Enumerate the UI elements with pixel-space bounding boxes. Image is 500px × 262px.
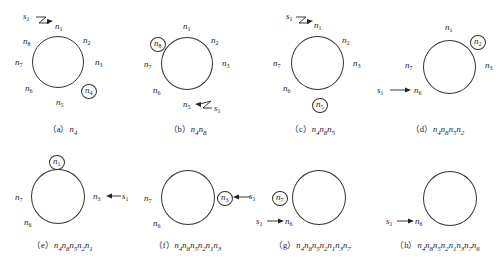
node-n6: n6	[24, 217, 32, 230]
node-n5: n5	[56, 97, 64, 110]
node-n6: n6	[153, 218, 161, 231]
arrow-right-icon	[267, 217, 285, 225]
node-n1: n1	[314, 20, 322, 33]
zigzag-arrow-icon	[36, 16, 54, 26]
node-n6: n6	[25, 83, 33, 96]
node-n7: n7	[15, 192, 23, 205]
node-n7: n7	[144, 59, 152, 72]
node-n6: n6	[283, 83, 291, 96]
node-n7-highlighted: n7	[272, 191, 288, 206]
node-n3: n3	[353, 58, 361, 71]
caption-g: （g）n4n8n5n2n1n3n7	[250, 238, 375, 253]
ring	[32, 36, 84, 88]
ring	[291, 36, 344, 90]
node-n7: n7	[144, 193, 152, 206]
node-n7: n7	[405, 60, 413, 73]
node-n7: n7	[273, 58, 281, 71]
node-n3-highlighted: n3	[217, 191, 233, 206]
zigzag-arrow-icon	[296, 16, 314, 26]
node-n7: n7	[15, 57, 23, 70]
node-n1: n1	[445, 22, 453, 35]
node-n1-highlighted: n1	[49, 155, 65, 170]
source-s1-lower: s1	[256, 216, 263, 229]
node-n3: n3	[93, 191, 101, 204]
node-n3: n3	[485, 60, 493, 73]
arrow-left-icon	[106, 192, 122, 200]
ring	[423, 171, 477, 226]
panel-b: n1 n2 n3 n5 s1 n6 n7 n8 （b）n4n8	[125, 0, 250, 131]
caption-e: （e）n4n8n5n2n1	[0, 238, 125, 253]
caption-f: （f）n4n8n5n2n1n3	[125, 238, 250, 253]
node-n3: n3	[95, 57, 103, 70]
node-n5-highlighted: n5	[312, 98, 328, 113]
ring	[292, 170, 346, 225]
node-n2: n2	[211, 35, 219, 48]
node-n1: n1	[183, 21, 191, 34]
arrow-right-icon	[397, 217, 415, 225]
panel-c: s1 n1 n2 n3 n5 n6 n7 （c）n4n8n5	[250, 0, 375, 131]
source-s1: s1	[377, 85, 384, 98]
panel-d: n1 n2 n3 n7 s1 n6 （d）n4n8n5n2	[375, 0, 500, 131]
panel-g: s1 n7 s1 n6 （g）n4n8n5n2n1n3n7	[250, 131, 375, 262]
arrow-right-icon	[390, 86, 412, 94]
node-n6: n6	[153, 85, 161, 98]
node-n5: n5	[183, 99, 191, 112]
zigzag-arrow-icon	[195, 100, 213, 110]
panel-h: s1 n6 （h）n4n8n5n2n1n3n7n6	[375, 131, 500, 262]
panel-a: s1 n1 n2 n3 n4 n5 n6 n7 n8 （a）n4	[0, 0, 125, 131]
source-s1: s1	[214, 103, 221, 116]
node-n6: n6	[414, 85, 422, 98]
node-n4-highlighted: n4	[81, 84, 97, 99]
node-n2: n2	[83, 35, 91, 48]
panel-e: n1 n3 s1 n7 n6 （e）n4n8n5n2n1	[0, 131, 125, 262]
source-s1: s1	[386, 216, 393, 229]
ring	[423, 40, 476, 94]
node-n6: n6	[415, 216, 423, 229]
source-s1: s1	[23, 11, 30, 24]
node-n8-highlighted: n8	[150, 37, 166, 52]
source-s1: s1	[286, 11, 293, 24]
node-n2-highlighted: n2	[470, 35, 486, 50]
ring	[161, 37, 213, 90]
ring	[31, 169, 85, 224]
node-n1: n1	[55, 21, 63, 34]
node-n3: n3	[222, 58, 230, 71]
panel-f: n7 n6 n3 （f）n4n8n5n2n1n3	[125, 131, 250, 262]
caption-h: （h）n4n8n5n2n1n3n7n6	[375, 238, 500, 253]
node-n2: n2	[342, 35, 350, 48]
node-n8: n8	[23, 36, 31, 49]
node-n6: n6	[285, 216, 293, 229]
ring	[161, 170, 215, 225]
source-s1: s1	[249, 191, 256, 204]
